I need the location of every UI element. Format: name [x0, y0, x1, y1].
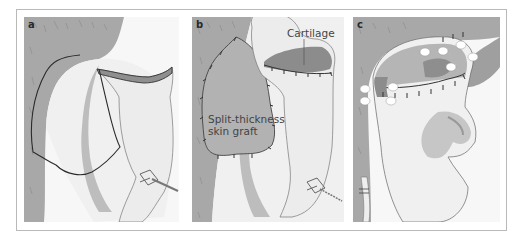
panel-c-illustration — [353, 17, 500, 222]
panel-a-illustration — [24, 17, 179, 222]
panel-label-a: a — [28, 19, 35, 30]
annotation-cartilage: Cartilage — [287, 27, 335, 39]
panel-b: b Cartilage Split-thickness skin graft — [192, 17, 344, 222]
panel-label-c: c — [357, 19, 363, 30]
panel-label-b: b — [196, 19, 203, 30]
panel-c: c — [353, 17, 500, 222]
annotation-graft-line1: Split-thickness — [208, 113, 285, 125]
panel-a: a — [24, 17, 179, 222]
annotation-graft-line2: skin graft — [208, 125, 258, 137]
